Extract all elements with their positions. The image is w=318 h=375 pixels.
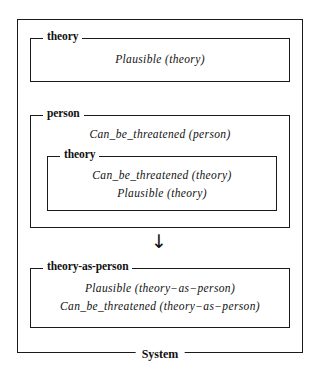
- theory-as-person-box-label: theory-as-person: [43, 260, 132, 272]
- theory-box-top: theory Plausible (theory): [30, 38, 290, 82]
- formula-plausible-theory-as-person: Plausible (theory−as−person): [31, 281, 289, 296]
- formula-text: Plausible (theory): [117, 187, 207, 199]
- theory-box-inner-label: theory: [60, 148, 99, 160]
- formula-can-be-threatened-theory-as-person: Can_be_threatened (theory−as−person): [31, 299, 289, 314]
- theory-as-person-box: theory-as-person Plausible (theory−as−pe…: [30, 268, 290, 328]
- formula-text: Can_be_threatened (person): [89, 128, 230, 140]
- theory-box-top-label: theory: [43, 30, 82, 42]
- down-arrow-icon: ↓: [0, 232, 318, 251]
- formula-text: Plausible (theory−as−person): [85, 282, 235, 294]
- theory-box-inner: theory Can_be_threatened (theory) Plausi…: [47, 156, 277, 211]
- down-arrow-glyph: ↓: [151, 230, 167, 252]
- formula-text: Can_be_threatened (theory): [92, 169, 231, 181]
- formula-plausible-theory: Plausible (theory): [31, 52, 289, 67]
- formula-can-be-threatened-theory: Can_be_threatened (theory): [48, 168, 276, 183]
- formula-plausible-theory-inner: Plausible (theory): [48, 186, 276, 201]
- formula-can-be-threatened-person: Can_be_threatened (person): [31, 127, 289, 142]
- formula-text: Can_be_threatened (theory−as−person): [60, 300, 260, 312]
- formula-text: Plausible (theory): [115, 53, 205, 65]
- system-frame-label: System: [136, 348, 185, 361]
- person-box-label: person: [43, 107, 84, 119]
